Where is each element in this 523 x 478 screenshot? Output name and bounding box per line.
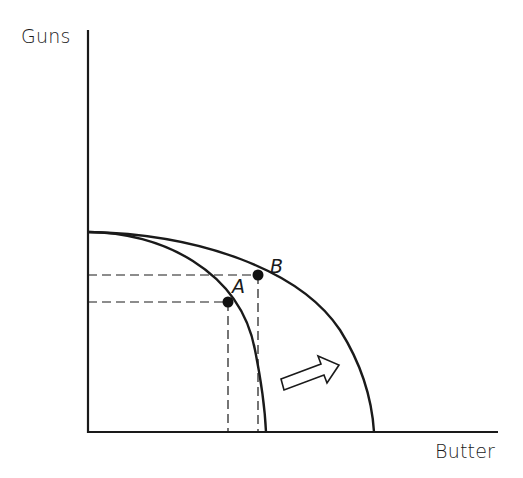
outer-frontier-curve xyxy=(88,232,374,432)
point-b-label: B xyxy=(270,255,283,277)
point-b-marker xyxy=(253,270,264,281)
point-a-marker xyxy=(223,297,234,308)
inner-frontier-curve xyxy=(88,232,266,432)
ppf-diagram: Guns Butter A B xyxy=(0,0,523,478)
point-a-label: A xyxy=(232,275,245,297)
ppf-graphic xyxy=(0,0,523,478)
y-axis-label: Guns xyxy=(21,25,71,47)
x-axis-label: Butter xyxy=(435,440,495,462)
shift-arrow-icon xyxy=(281,356,339,390)
